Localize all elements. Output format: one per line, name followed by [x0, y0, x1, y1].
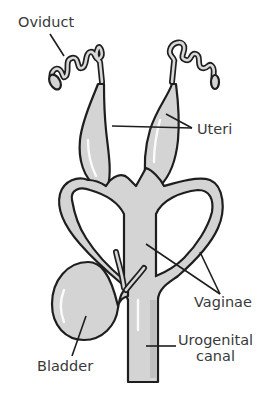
bladder-label: Bladder — [37, 358, 93, 374]
oviduct-label: Oviduct — [18, 14, 74, 30]
urogenital-label-line2: canal — [196, 348, 235, 364]
uteri-label: Uteri — [197, 121, 232, 137]
right-oviduct — [170, 43, 219, 89]
urogenital-label-line1: Urogenital — [178, 332, 253, 348]
uteri-leader-left — [112, 126, 192, 128]
oviduct-leader — [50, 34, 64, 56]
left-oviduct — [47, 47, 102, 91]
vaginae-label: Vaginae — [194, 294, 252, 310]
